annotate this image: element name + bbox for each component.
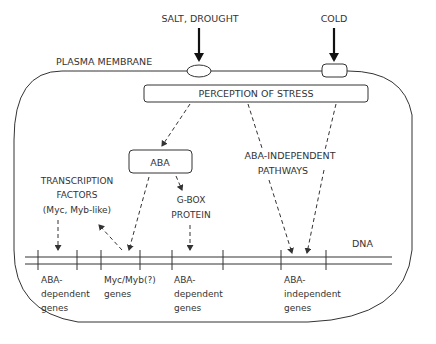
cold-label: COLD: [321, 13, 348, 24]
gene-group-aba-dependent-2: ABA- dependent genes: [174, 275, 223, 313]
osmotic-receptor-icon: [187, 65, 211, 77]
svg-text:Myc/Myb(?): Myc/Myb(?): [104, 275, 156, 285]
arrow-perception-to-aba-independent-right: [325, 104, 336, 150]
arrow-aba-to-gbox: [176, 176, 182, 190]
arrow-perception-to-aba-independent-left: [248, 104, 262, 148]
transcription-factors-line2: FACTORS: [56, 190, 97, 200]
svg-text:dependent: dependent: [41, 289, 90, 299]
aba-label: ABA: [150, 157, 170, 168]
dna-label: DNA: [352, 238, 373, 249]
transcription-factors-line1: TRANSCRIPTION: [40, 176, 114, 186]
svg-text:genes: genes: [104, 289, 131, 299]
aba-independent-pathways-line2: PATHWAYS: [258, 165, 308, 176]
svg-text:independent: independent: [284, 289, 341, 299]
cold-receptor-icon: [322, 64, 347, 77]
svg-text:dependent: dependent: [174, 289, 223, 299]
arrow-aba-independent-right-to-dna: [307, 170, 324, 253]
svg-text:genes: genes: [41, 303, 68, 313]
arrow-perception-to-aba: [162, 104, 190, 146]
gene-group-aba-dependent-1: ABA- dependent genes: [41, 275, 90, 313]
arrow-myc-myb-to-transcription-factors: [99, 225, 122, 250]
perception-of-stress-label: PERCEPTION OF STRESS: [199, 88, 314, 99]
svg-text:ABA-: ABA-: [174, 275, 196, 285]
svg-text:ABA-: ABA-: [284, 275, 306, 285]
aba-independent-pathways-line1: ABA-INDEPENDENT: [244, 150, 335, 161]
arrow-aba-to-myc-myb-genes: [129, 177, 149, 250]
arrow-aba-independent-left-to-dna: [269, 180, 292, 253]
transcription-factors-line3: (Myc, Myb-like): [43, 205, 111, 215]
gbox-protein-line1: G-BOX: [177, 195, 206, 205]
gene-group-myc-myb: Myc/Myb(?) genes: [104, 275, 156, 299]
plasma-membrane-label: PLASMA MEMBRANE: [56, 56, 152, 67]
gbox-protein-line2: PROTEIN: [171, 210, 210, 220]
gene-boundary-ticks: [38, 250, 326, 270]
salt-drought-label: SALT, DROUGHT: [161, 13, 238, 24]
svg-text:ABA-: ABA-: [41, 275, 63, 285]
stress-signaling-diagram: SALT, DROUGHT COLD PLASMA MEMBRANE PERCE…: [0, 0, 436, 344]
svg-text:genes: genes: [174, 303, 201, 313]
svg-text:genes: genes: [284, 303, 311, 313]
gene-group-aba-independent: ABA- independent genes: [284, 275, 341, 313]
